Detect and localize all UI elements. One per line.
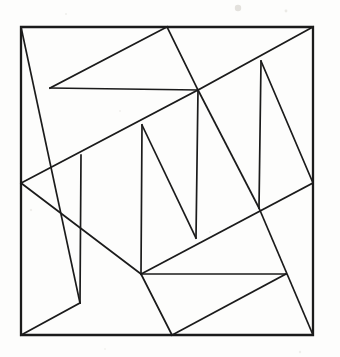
segment-lower-center-to-bottom-edge xyxy=(141,274,172,335)
segment-upper-center-to-top-right xyxy=(198,27,313,90)
paper-speck-2 xyxy=(65,13,67,15)
segment-right-upper-to-right-edge xyxy=(261,61,313,183)
segment-lower-left-to-bottom-left xyxy=(21,303,80,335)
paper-speck-5 xyxy=(209,231,211,233)
segment-upper-center-to-center-bottom xyxy=(196,90,198,238)
segment-right-edge-to-lower-center xyxy=(141,183,313,274)
segment-upper-center-to-right-center xyxy=(198,90,259,208)
paper-speck-7 xyxy=(104,348,106,350)
segment-upper-left-to-top-edge xyxy=(50,27,167,88)
tiling-diagram xyxy=(0,0,340,357)
segment-center-vertical xyxy=(141,125,142,274)
paper-speck-4 xyxy=(30,209,32,211)
segment-right-upper-vertical xyxy=(259,61,261,208)
segment-upper-left-horizontal xyxy=(50,88,198,90)
paper-speckle-layer xyxy=(30,5,301,353)
outer-square-border xyxy=(21,27,313,335)
segment-upper-center-to-left-edge xyxy=(21,90,198,183)
segment-right-center-to-bottom-right xyxy=(259,208,313,335)
figure-container xyxy=(0,0,340,357)
paper-speck-3 xyxy=(119,110,121,112)
paper-speck-6 xyxy=(299,351,301,353)
dissection-lines xyxy=(21,27,313,335)
segment-top-edge-to-upper-center xyxy=(167,27,198,90)
segment-center-top-to-center-bottom xyxy=(142,125,196,238)
paper-speck-1 xyxy=(285,10,288,13)
paper-speck-0 xyxy=(235,5,241,11)
segment-top-left-to-lower-left xyxy=(21,27,80,303)
segment-lower-right-to-bottom-edge xyxy=(172,274,286,335)
